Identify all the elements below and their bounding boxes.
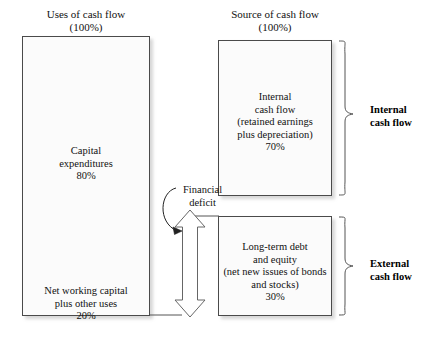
uses-column-header: Uses of cash flow (100%) [22,8,150,34]
external-cash-flow-brace-label: External cash flow [370,258,412,283]
brace-internal-icon [339,41,353,195]
external-cash-flow-box: Long-term debt and equity (net new issue… [218,216,332,316]
long-term-debt-and-equity-label: Long-term debt and equity (net new issue… [219,241,331,304]
financial-deficit-label: Financial deficit [183,184,222,209]
curved-pointer-icon [163,188,177,231]
cash-flow-diagram: Uses of cash flow (100%) Source of cash … [0,0,423,349]
internal-cash-flow-label: Internal cash flow (retained earnings pl… [219,91,331,154]
double-arrow-icon [175,210,205,317]
sources-column-header: Source of cash flow (100%) [218,8,332,34]
internal-cash-flow-box: Internal cash flow (retained earnings pl… [218,40,332,196]
internal-cash-flow-brace-label: Internal cash flow [370,104,412,129]
net-working-capital-label: Net working capital plus other uses 20% [23,285,149,323]
brace-external-icon [339,217,353,315]
uses-of-cash-flow-box: Capital expenditures 80% Net working cap… [22,36,150,316]
curved-pointer-arrowhead-icon [173,227,182,235]
capital-expenditures-label: Capital expenditures 80% [23,145,149,183]
